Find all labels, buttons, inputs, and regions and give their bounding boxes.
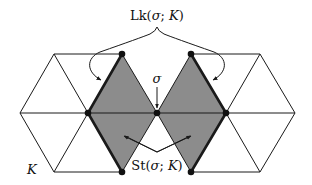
link-label: Lk(σ; K): [130, 8, 184, 23]
link-brace: [100, 27, 214, 52]
link-vertex: [188, 169, 195, 176]
link-vertex: [119, 169, 126, 176]
link-arrow-left: [90, 52, 101, 80]
link-vertex: [188, 51, 195, 58]
star-label: St(σ; K): [131, 158, 182, 173]
link-vertex: [119, 51, 126, 58]
complex-label: K: [26, 162, 38, 177]
simplicial-complex-diagram: Lk(σ; K) σ St(σ; K) K: [0, 0, 312, 185]
sigma-label: σ: [153, 71, 163, 86]
sigma-vertex: [154, 110, 161, 117]
link-arrow-right: [213, 52, 224, 80]
link-vertex: [85, 110, 92, 117]
link-vertex: [223, 110, 230, 117]
